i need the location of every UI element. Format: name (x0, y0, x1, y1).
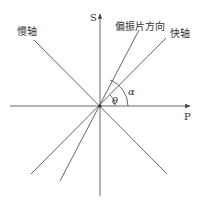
alpha-label: α (128, 87, 135, 97)
fast-axis-label: 快轴 (170, 29, 190, 39)
s-axis-label: S (90, 13, 97, 23)
theta-label: θ (112, 96, 118, 106)
slow-axis-label: 慢轴 (17, 27, 37, 37)
p-axis-label: P (184, 112, 191, 122)
polarizer-direction-label: 偏振片方向 (115, 22, 165, 32)
